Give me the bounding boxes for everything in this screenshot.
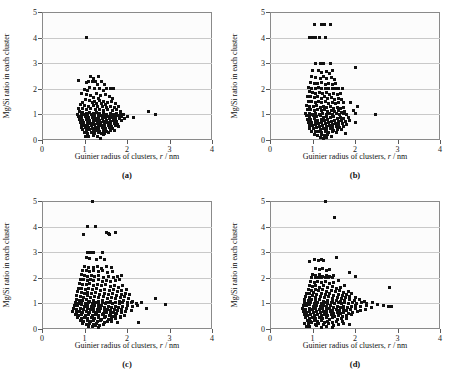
y-tick-label-1: 1 <box>261 110 265 119</box>
data-point <box>125 288 128 291</box>
data-point <box>108 233 111 236</box>
data-point <box>86 89 89 92</box>
data-point <box>308 325 311 328</box>
data-point <box>88 257 91 260</box>
data-point <box>98 108 101 111</box>
data-point <box>321 288 324 291</box>
data-point <box>97 75 100 78</box>
data-point <box>107 275 110 278</box>
data-point <box>356 310 359 313</box>
x-tick-0 <box>42 140 43 144</box>
data-point <box>140 301 143 304</box>
data-point <box>325 77 328 80</box>
data-point <box>83 265 86 268</box>
data-point <box>114 102 117 105</box>
data-point <box>364 308 367 311</box>
data-point <box>101 269 104 272</box>
data-point <box>96 283 99 286</box>
data-point <box>330 289 333 292</box>
y-axis-label-d: Mg/Si ratio in each cluster <box>230 223 239 308</box>
data-point <box>102 133 105 136</box>
y-axis-label-a: Mg/Si ratio in each cluster <box>2 34 11 119</box>
data-point <box>113 129 116 132</box>
figure-scatter-grid: Mg/Si ratio in each cluster 01234501234 … <box>0 0 457 378</box>
data-point <box>308 260 311 263</box>
data-point <box>83 88 86 91</box>
data-point <box>164 303 167 306</box>
data-point <box>313 258 316 261</box>
x-tick-1 <box>85 329 86 333</box>
data-point <box>102 295 105 298</box>
x-axis-label-suffix-b: / nm <box>391 152 407 161</box>
data-point <box>80 92 83 95</box>
data-point <box>114 231 117 234</box>
data-point <box>95 258 98 261</box>
y-tick-label-0: 0 <box>33 136 37 145</box>
plot-area-c: 01234501234 <box>42 201 212 329</box>
x-tick-4 <box>440 140 441 144</box>
x-tick-2 <box>127 140 128 144</box>
data-point <box>320 326 323 329</box>
data-point <box>119 316 122 319</box>
panel-caption-d: (d) <box>270 359 440 369</box>
data-point <box>93 87 96 90</box>
data-point <box>324 200 327 203</box>
data-point <box>87 266 90 269</box>
y-tick-label-2: 2 <box>261 84 265 93</box>
data-point <box>114 317 117 320</box>
x-axis-label-suffix-d: / nm <box>391 341 407 350</box>
x-tick-4 <box>212 329 213 333</box>
data-point <box>382 304 385 307</box>
plot-area-a: 01234501234 <box>42 12 212 140</box>
data-point <box>97 278 100 281</box>
x-axis-label-prefix-b: Guinier radius of clusters, <box>303 152 388 161</box>
data-point <box>331 69 334 72</box>
data-point <box>354 275 357 278</box>
x-tick-3 <box>170 329 171 333</box>
y-tick-label-5: 5 <box>33 8 37 17</box>
y-axis-label-c: Mg/Si ratio in each cluster <box>2 223 11 308</box>
data-point <box>120 274 123 277</box>
data-point <box>328 72 331 75</box>
data-point <box>106 271 109 274</box>
data-point <box>110 320 113 323</box>
y-tick-label-1: 1 <box>33 299 37 308</box>
data-point <box>350 313 353 316</box>
data-points-a <box>42 12 212 140</box>
data-point <box>360 301 363 304</box>
x-axis-label-suffix-a: / nm <box>163 152 179 161</box>
data-point <box>145 307 148 310</box>
data-point <box>316 82 319 85</box>
data-point <box>111 270 114 273</box>
data-point <box>348 271 351 274</box>
data-point <box>335 256 338 259</box>
x-tick-3 <box>398 329 399 333</box>
data-point <box>126 115 129 118</box>
data-point <box>337 323 340 326</box>
data-point <box>89 107 92 110</box>
data-point <box>328 268 331 271</box>
y-tick-label-1: 1 <box>261 299 265 308</box>
panel-caption-a: (a) <box>42 170 212 180</box>
data-point <box>371 301 374 304</box>
data-point <box>374 113 377 116</box>
data-point <box>339 286 342 289</box>
data-point <box>331 285 334 288</box>
y-tick-label-0: 0 <box>33 325 37 334</box>
data-point <box>329 62 332 65</box>
data-point <box>110 266 113 269</box>
data-point <box>96 265 99 268</box>
data-point <box>338 289 341 292</box>
data-point <box>334 82 337 85</box>
data-points-c <box>42 201 212 329</box>
data-point <box>325 136 328 139</box>
data-point <box>99 137 102 140</box>
data-point <box>102 89 105 92</box>
data-points-b <box>270 12 440 140</box>
panel-a: Mg/Si ratio in each cluster 01234501234 … <box>0 0 228 189</box>
data-point <box>85 93 88 96</box>
y-tick-label-4: 4 <box>261 33 265 42</box>
y-tick-label-5: 5 <box>261 8 265 17</box>
data-point <box>123 295 126 298</box>
panel-b: Mg/Si ratio in each cluster 01234501234 … <box>228 0 457 189</box>
